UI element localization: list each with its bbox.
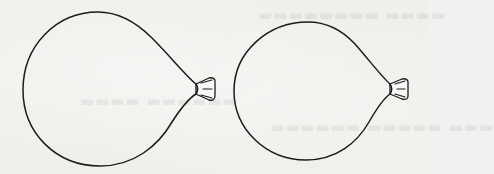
balloon-large-knot bbox=[196, 78, 215, 101]
balloon-small-outline bbox=[234, 22, 390, 160]
balloon-large-outline bbox=[23, 12, 196, 166]
balloon-small bbox=[234, 22, 408, 160]
balloon-small-knot bbox=[390, 79, 408, 100]
balloon-large bbox=[23, 12, 215, 166]
